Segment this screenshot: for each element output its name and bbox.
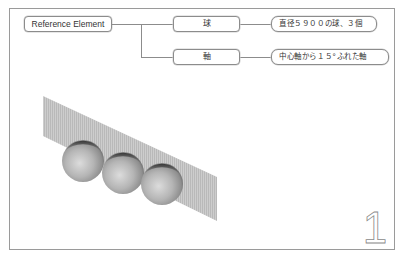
page-number-text: 1 — [364, 205, 386, 247]
sphere-1 — [62, 140, 104, 182]
sphere-plane-illustration — [0, 0, 401, 262]
page-number: 1 — [364, 205, 386, 247]
sphere-3 — [141, 163, 183, 205]
sphere-2 — [102, 152, 144, 194]
